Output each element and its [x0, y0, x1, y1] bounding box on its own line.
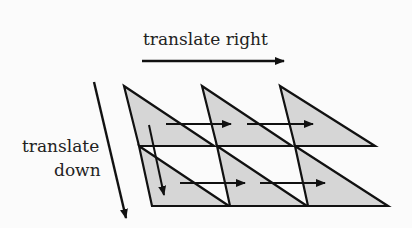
translation-diagram: translate right translate down	[0, 0, 412, 228]
triangle-r2c3	[295, 146, 388, 206]
triangle-r2c2	[217, 146, 307, 206]
triangle-grid	[124, 86, 388, 206]
triangle-r1c1	[124, 86, 214, 146]
triangle-r1c3	[280, 86, 375, 146]
label-translate-down-2: down	[54, 160, 101, 180]
triangle-r2c1	[139, 146, 229, 206]
triangle-r1c2	[202, 86, 292, 146]
label-translate-right: translate right	[143, 29, 268, 49]
label-translate-down-1: translate	[22, 136, 99, 156]
